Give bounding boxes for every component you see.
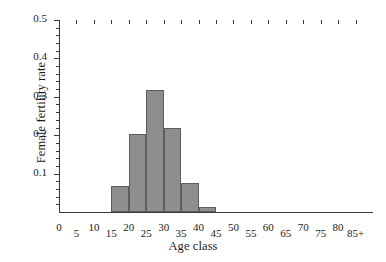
y-tick-major: 0.3 <box>54 97 59 98</box>
y-tick-minor <box>56 43 59 44</box>
y-tick-label: 0.2 <box>33 127 47 139</box>
x-axis-line <box>59 212 373 213</box>
x-tick <box>216 20 217 24</box>
y-tick-minor <box>56 181 59 182</box>
x-tick-label: 0 <box>56 221 62 233</box>
x-tick <box>94 20 95 24</box>
x-tick <box>146 20 147 24</box>
x-tick-label: 25 <box>141 227 152 239</box>
y-tick-minor <box>56 204 59 205</box>
y-tick-label: 0.3 <box>33 89 47 101</box>
y-tick-minor <box>56 166 59 167</box>
x-tick-label: 5 <box>74 227 80 239</box>
x-tick-label: 30 <box>158 221 169 233</box>
x-tick <box>338 20 339 24</box>
y-tick-minor <box>56 66 59 67</box>
x-tick <box>268 20 269 24</box>
y-tick-minor <box>56 197 59 198</box>
y-tick-minor <box>56 158 59 159</box>
x-tick <box>321 20 322 24</box>
x-tick <box>76 20 77 24</box>
x-tick-label: 80 <box>333 221 344 233</box>
x-tick-label: 45 <box>211 227 222 239</box>
x-tick <box>356 20 357 24</box>
y-tick-minor <box>56 74 59 75</box>
y-tick-minor <box>56 120 59 121</box>
bar <box>164 128 181 212</box>
y-tick-label: 0.1 <box>33 166 47 178</box>
y-tick-minor <box>56 35 59 36</box>
x-tick <box>111 20 112 24</box>
x-tick-label: 70 <box>298 221 309 233</box>
x-tick-label: 50 <box>228 221 239 233</box>
y-tick-minor <box>56 128 59 129</box>
bar <box>181 183 198 212</box>
x-axis-title: Age class <box>0 239 386 254</box>
plot-area: 0.10.20.30.40.5 051015202530354045505560… <box>59 20 373 212</box>
x-tick-label: 60 <box>263 221 274 233</box>
x-tick <box>59 20 60 24</box>
x-tick-label: 35 <box>176 227 187 239</box>
y-tick-label: 0.5 <box>33 12 47 24</box>
bar <box>129 134 146 212</box>
x-tick <box>251 20 252 24</box>
y-tick-major: 0.4 <box>54 58 59 59</box>
x-tick-label: 75 <box>315 227 326 239</box>
x-tick-label: 15 <box>106 227 117 239</box>
bar <box>199 207 216 212</box>
x-tick-label: 65 <box>280 227 291 239</box>
y-tick-major: 0.2 <box>54 135 59 136</box>
fertility-rate-bar-chart: Female fertility rate 0.10.20.30.40.5 05… <box>0 0 386 262</box>
x-tick-label: 40 <box>193 221 204 233</box>
x-tick <box>286 20 287 24</box>
x-tick <box>199 20 200 24</box>
y-tick-minor <box>56 189 59 190</box>
y-tick-minor <box>56 81 59 82</box>
x-tick <box>129 20 130 24</box>
x-tick-label: 20 <box>123 221 134 233</box>
y-tick-minor <box>56 104 59 105</box>
y-tick-major: 0.1 <box>54 174 59 175</box>
y-tick-minor <box>56 151 59 152</box>
x-tick <box>181 20 182 24</box>
y-tick-minor <box>56 28 59 29</box>
x-tick <box>233 20 234 24</box>
x-tick-label: 10 <box>88 221 99 233</box>
y-axis-line <box>59 20 60 212</box>
x-tick-label: 55 <box>245 227 256 239</box>
y-tick-label: 0.4 <box>33 50 47 62</box>
y-tick-minor <box>56 143 59 144</box>
y-tick-minor <box>56 112 59 113</box>
y-tick-minor <box>56 89 59 90</box>
x-tick-label: 85+ <box>347 227 364 239</box>
bar <box>146 90 163 212</box>
bar <box>111 186 128 212</box>
x-tick <box>164 20 165 24</box>
y-tick-minor <box>56 51 59 52</box>
x-tick <box>303 20 304 24</box>
